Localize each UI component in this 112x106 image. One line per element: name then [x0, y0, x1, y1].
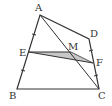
label-e: E — [19, 47, 26, 58]
label-m: M — [68, 41, 78, 52]
tick-mark-fc — [94, 75, 98, 76]
label-b: B — [9, 90, 16, 101]
geometry-diagram: A B C D E F M — [0, 0, 112, 106]
label-c: C — [98, 90, 106, 101]
tick-mark-eb — [21, 70, 25, 71]
tick-mark-ae — [32, 34, 36, 35]
label-a: A — [34, 2, 43, 13]
label-f: F — [96, 57, 103, 68]
label-d: D — [90, 28, 98, 39]
tick-mark-df — [89, 50, 93, 51]
